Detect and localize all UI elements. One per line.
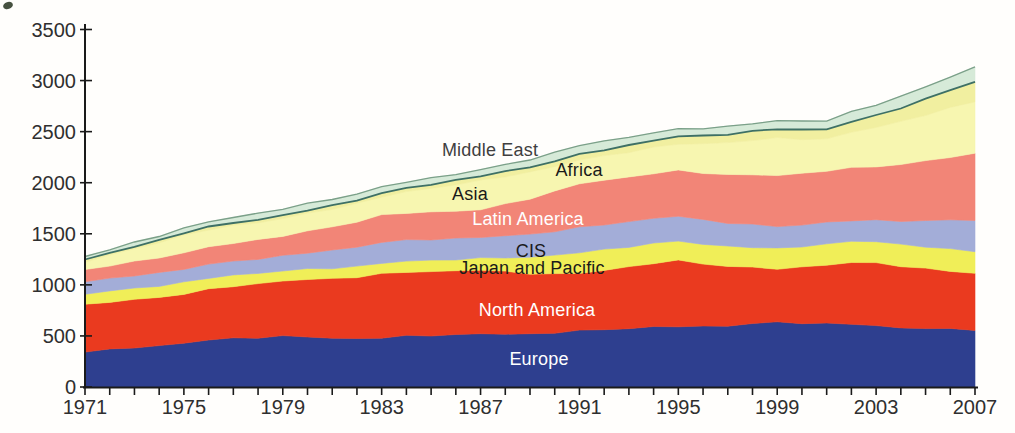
x-tick-label: 2003 (854, 396, 899, 418)
y-tick-label: 3000 (32, 70, 77, 92)
x-tick-label: 1999 (755, 396, 800, 418)
area-bands (85, 67, 975, 387)
y-tick-label: 3500 (32, 19, 77, 41)
x-tick-label: 1991 (557, 396, 602, 418)
y-tick-label: 500 (43, 325, 76, 347)
stacked-area-chart-canvas: 0500100015002000250030003500197119751979… (0, 0, 1015, 433)
y-tick-label: 0 (65, 376, 76, 398)
y-tick-label: 1000 (32, 274, 77, 296)
y-tick-label: 2500 (32, 121, 77, 143)
x-tick-label: 1995 (656, 396, 701, 418)
chart-container: 0500100015002000250030003500197119751979… (0, 0, 1015, 433)
y-tick-label: 1500 (32, 223, 77, 245)
x-tick-label: 1987 (458, 396, 503, 418)
y-tick-label: 2000 (32, 172, 77, 194)
x-tick-label: 1979 (261, 396, 306, 418)
x-tick-label: 1975 (162, 396, 207, 418)
x-tick-label: 1983 (359, 396, 404, 418)
x-tick-label: 2007 (953, 396, 998, 418)
x-tick-label: 1971 (63, 396, 108, 418)
